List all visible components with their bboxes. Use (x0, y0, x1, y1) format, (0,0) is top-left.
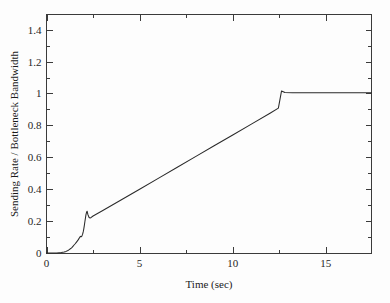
y-tick-label: 0 (36, 247, 42, 259)
figure-background (0, 0, 390, 303)
y-tick-label: 0.8 (28, 119, 42, 131)
y-axis-title: Sending Rate / Bottleneck Bandwidth (8, 50, 20, 217)
plot-area: 00.20.40.60.811.21.4 051015 Time (sec) S… (0, 0, 390, 303)
x-axis-title: Time (sec) (186, 278, 233, 291)
y-tick-label: 1.4 (28, 24, 42, 36)
y-tick-label: 0.4 (28, 183, 42, 195)
x-tick-label: 10 (227, 257, 239, 269)
y-tick-label: 1 (36, 87, 42, 99)
y-tick-label: 0.6 (28, 151, 42, 163)
x-tick-label: 15 (320, 257, 332, 269)
chart-figure: 00.20.40.60.811.21.4 051015 Time (sec) S… (0, 0, 390, 303)
y-tick-label: 0.2 (28, 215, 42, 227)
x-tick-label: 5 (137, 257, 143, 269)
y-tick-label: 1.2 (28, 56, 42, 68)
x-tick-label: 0 (44, 257, 50, 269)
